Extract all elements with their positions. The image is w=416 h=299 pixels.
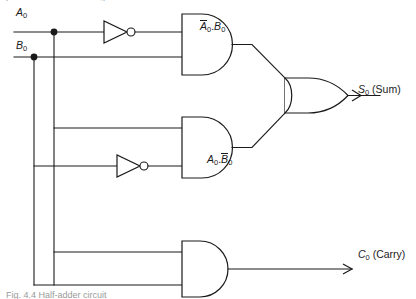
signal-label-not-a-and-b: A0.B0 [200,21,225,32]
output-sum-name: (Sum) [372,83,401,95]
input-label-b0-sub: 0 [23,44,27,53]
inverter-a0-bubble [127,28,135,36]
and-gate-a-and-not-b-body [182,117,232,178]
junction-dot-a0 [51,29,58,36]
inverter-b0-body [117,155,140,177]
anb-term2-sub: 0 [228,158,232,167]
input-label-b0: B0 [16,40,27,51]
junction-dot-b0 [31,54,38,61]
nab-term2-sub: 0 [221,25,225,34]
input-label-a0: A0 [16,7,27,18]
anb-term1-sub: 0 [214,158,218,167]
output-carry-sub: 0 [366,253,370,262]
wire-and-top-out-to-or [232,45,285,79]
figure-caption-cropped: Fig. 4.4 Half-adder circuit [6,290,246,299]
output-sum-symbol: S [358,83,365,95]
or-gate-sum-body [285,78,348,113]
nab-term1-sub: 0 [207,25,211,34]
input-label-b0-symbol: B [16,39,23,51]
output-label-carry: C0 (Carry) [358,249,405,260]
output-carry-symbol: C [358,248,366,260]
anb-term1-symbol: A [207,153,214,165]
inverter-a0-body [104,21,127,43]
overbar-group-a: A [200,21,207,32]
and-gate-carry-body [182,241,228,297]
input-label-a0-symbol: A [16,6,23,18]
input-label-a0-sub: 0 [23,11,27,20]
nab-term1-symbol: A [200,20,207,32]
signal-label-a-and-not-b: A0.B0 [207,154,232,165]
wire-and-mid-out-to-or [232,113,285,148]
output-sum-sub: 0 [365,88,369,97]
output-label-sum: S0 (Sum) [358,84,401,95]
inverter-b0-bubble [140,162,148,170]
output-carry-name: (Carry) [373,248,406,260]
